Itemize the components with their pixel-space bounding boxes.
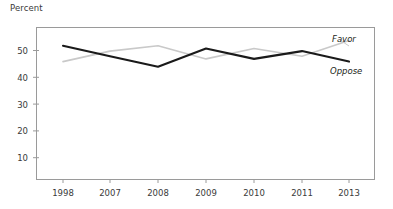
x-tick-marks — [63, 180, 349, 184]
chart-figure: Percent 50 40 30 20 — [0, 0, 393, 209]
chart-canvas — [0, 0, 393, 209]
y-tick-label-50: 50 — [6, 46, 28, 56]
x-tick-label-2007: 2007 — [90, 188, 130, 198]
x-tick-label-2008: 2008 — [138, 188, 178, 198]
y-tick-label-10: 10 — [6, 153, 28, 163]
x-tick-label-2009: 2009 — [186, 188, 226, 198]
series-label-favor: Favor — [332, 34, 356, 44]
x-tick-label-2011: 2011 — [282, 188, 322, 198]
series-label-oppose: Oppose — [330, 66, 362, 76]
x-tick-label-1998: 1998 — [43, 188, 83, 198]
series-line-oppose — [63, 46, 349, 67]
y-tick-label-40: 40 — [6, 73, 28, 83]
x-tick-label-2010: 2010 — [234, 188, 274, 198]
x-tick-label-2013: 2013 — [329, 188, 369, 198]
y-tick-label-30: 30 — [6, 100, 28, 110]
y-tick-label-20: 20 — [6, 126, 28, 136]
